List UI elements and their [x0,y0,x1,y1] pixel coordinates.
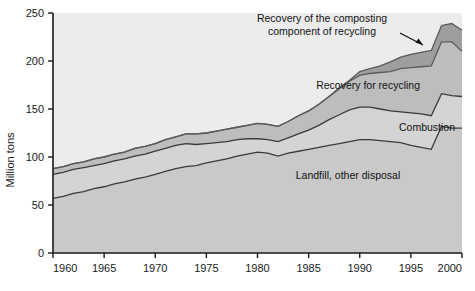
x-tick-label: 1965 [92,262,116,274]
y-tick-label: 0 [38,247,44,259]
x-tick-label: 1970 [143,262,167,274]
annotation-landfill: Landfill, other disposal [296,169,400,181]
y-tick-label: 250 [26,7,44,19]
annotation-combustion: Combustion [399,121,455,133]
x-tick-label: 1985 [296,262,320,274]
y-tick-label: 200 [26,55,44,67]
x-tick-label: 1960 [53,262,77,274]
annotation-composting-line2: component of recycling [268,25,376,37]
stacked-area-chart: 050100150200250 196019651970197519801985… [0,0,475,291]
y-tick-label: 100 [26,151,44,163]
x-tick-label: 2000 [438,262,462,274]
y-tick-label: 50 [32,199,44,211]
y-tick-label: 150 [26,103,44,115]
annotation-composting-line1: Recovery of the composting [257,12,387,24]
y-axis-label: Million tons [4,132,16,188]
x-tick-label: 1990 [348,262,372,274]
x-tick-label: 1980 [245,262,269,274]
x-tick-label: 1995 [399,262,423,274]
chart-container: 050100150200250 196019651970197519801985… [0,0,475,291]
annotation-recovery-recycling: Recovery for recycling [316,79,420,91]
x-tick-label: 1975 [194,262,218,274]
